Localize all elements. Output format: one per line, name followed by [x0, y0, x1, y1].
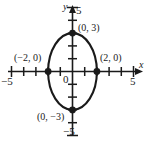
point-label-right: (2, 0)	[100, 53, 122, 63]
x-max-tick-label: 5	[130, 76, 136, 87]
x-min-tick-label: −5	[1, 76, 13, 87]
ellipse-graph-figure: y x 5 −5 −5 5 0 (0, 3) (0, −3) (−2, 0) (…	[0, 0, 149, 143]
y-axis-label: y	[63, 2, 67, 12]
y-axis-arrow	[69, 5, 76, 13]
origin-label: 0	[63, 74, 69, 85]
coordinate-plane-svg	[0, 0, 149, 143]
point-label-top: (0, 3)	[78, 23, 100, 33]
point-label-left: (−2, 0)	[14, 53, 41, 63]
point-top	[69, 30, 76, 37]
point-bottom	[69, 107, 76, 114]
y-max-tick-label: 5	[76, 5, 82, 16]
x-axis	[8, 68, 143, 75]
point-right	[94, 68, 101, 75]
x-axis-label: x	[139, 60, 143, 70]
y-axis	[69, 5, 76, 135]
y-min-tick-label: −5	[63, 126, 75, 137]
point-left	[45, 68, 52, 75]
point-label-bottom: (0, −3)	[37, 112, 64, 122]
